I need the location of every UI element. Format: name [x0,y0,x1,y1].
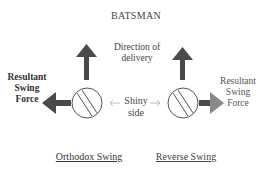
resultant-right-line-1: Resultant [212,76,260,87]
direction-line-2: delivery [110,53,164,64]
resultant-left-line-2: Swing [0,83,54,94]
resultant-right-line-3: Force [212,98,260,109]
direction-line-1: Direction of [110,42,164,53]
shiny-side-label: Shiny side [112,95,160,118]
delivery-arrow-right-icon [172,47,193,80]
direction-of-delivery-label: Direction of delivery [110,42,164,64]
reverse-swing-label: Reverse Swing [154,151,218,163]
delivery-arrow-left-icon [76,44,97,80]
resultant-force-left-label: Resultant Swing Force [0,72,54,105]
shiny-line-2: side [112,107,160,119]
diagram-title: BATSMAN [0,10,260,22]
resultant-left-line-1: Resultant [0,72,54,83]
resultant-left-line-3: Force [0,94,54,105]
ball-reverse-icon [168,88,198,118]
ball-orthodox-icon [72,88,102,118]
resultant-right-line-2: Swing [212,87,260,98]
orthodox-swing-label: Orthodox Swing [54,151,124,163]
resultant-force-right-label: Resultant Swing Force [212,76,260,109]
shiny-line-1: Shiny [112,95,160,107]
